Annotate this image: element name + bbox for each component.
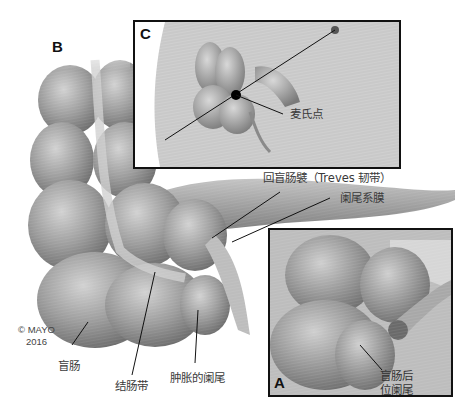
label-cecum: 盲肠 xyxy=(58,360,80,374)
label-ileocecal-fold: 回盲肠襞（Treves 韧带） xyxy=(263,172,391,186)
panel-b-letter: B xyxy=(52,38,63,55)
copyright-line1: © MAYO xyxy=(18,324,55,336)
label-taenia-coli: 结肠带 xyxy=(115,380,148,394)
panel-a-letter: A xyxy=(274,374,285,391)
panel-a-inset: A 盲肠后 位阑尾 xyxy=(268,228,453,397)
label-mcburney-point: 麦氏点 xyxy=(290,108,323,122)
panel-c-letter: C xyxy=(140,25,151,42)
panel-c-inset: C 麦氏点 xyxy=(133,20,401,169)
label-mesoappendix: 阑尾系膜 xyxy=(340,192,384,206)
label-retrocecal-appendix-line1: 盲肠后 xyxy=(380,370,413,384)
label-retrocecal-appendix-line2: 位阑尾 xyxy=(380,384,413,397)
label-swollen-appendix: 肿胀的阑尾 xyxy=(170,372,225,386)
copyright-line2: 2016 xyxy=(18,336,55,348)
copyright-notice: © MAYO 2016 xyxy=(18,324,55,349)
